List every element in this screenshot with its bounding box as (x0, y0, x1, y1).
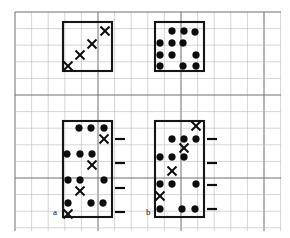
filled-circle-icon (76, 125, 83, 132)
filled-circle-icon (157, 52, 164, 59)
filled-circle-icon (77, 177, 84, 184)
filled-circle-icon (157, 154, 164, 161)
filled-circle-icon (157, 206, 164, 213)
filled-circle-icon (77, 151, 84, 158)
grid-diagram: ab (0, 0, 290, 238)
filled-circle-icon (180, 40, 187, 47)
filled-circle-icon (193, 52, 200, 59)
filled-circle-icon (169, 28, 176, 35)
filled-circle-icon (169, 40, 176, 47)
filled-circle-icon (181, 136, 188, 143)
filled-circle-icon (193, 181, 200, 188)
filled-circle-icon (193, 63, 200, 70)
filled-circle-icon (169, 154, 176, 161)
filled-circle-icon (192, 206, 199, 213)
filled-circle-icon (100, 200, 107, 207)
figure-container: ab (0, 0, 290, 238)
filled-circle-icon (88, 200, 95, 207)
filled-circle-icon (65, 200, 72, 207)
filled-circle-icon (64, 151, 71, 158)
filled-circle-icon (101, 177, 108, 184)
filled-circle-icon (157, 63, 164, 70)
filled-circle-icon (65, 177, 72, 184)
filled-circle-icon (193, 136, 200, 143)
filled-circle-icon (157, 40, 164, 47)
filled-circle-icon (181, 28, 188, 35)
filled-circle-icon (179, 206, 186, 213)
filled-circle-icon (192, 29, 199, 36)
panel-label-bottom-right: b (146, 207, 151, 217)
filled-circle-icon (181, 154, 188, 161)
filled-circle-icon (169, 136, 176, 143)
filled-circle-icon (180, 63, 187, 70)
filled-circle-icon (169, 52, 176, 59)
filled-circle-icon (89, 151, 96, 158)
panel-label-bottom-left: a (53, 207, 57, 217)
filled-circle-icon (169, 181, 176, 188)
filled-circle-icon (157, 181, 164, 188)
filled-circle-icon (88, 125, 95, 132)
filled-circle-icon (101, 125, 108, 132)
figure-background (0, 0, 290, 238)
